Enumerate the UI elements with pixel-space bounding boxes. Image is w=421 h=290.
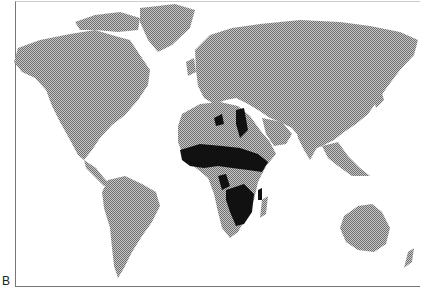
arctic-islands [75,12,140,32]
se-asia [322,142,370,176]
south-america [102,176,160,278]
greenland [140,4,195,52]
north-america [14,30,150,160]
panel-label: B [2,274,10,288]
uk [186,58,196,76]
central-america [84,160,110,186]
world-map [0,0,421,290]
australia [340,204,390,252]
india [296,128,320,160]
new-zealand [404,248,414,268]
